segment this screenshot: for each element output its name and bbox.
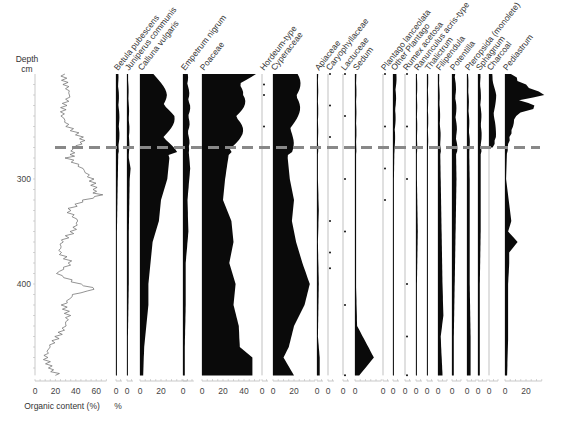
taxon-tick-label: 0 [200, 386, 205, 396]
trace-dot [263, 126, 265, 128]
depth-axis-title: Depth [16, 54, 39, 64]
organic-tick-label: 60 [91, 386, 101, 396]
taxon-profile-potentilla [452, 74, 457, 375]
taxon-tick-label: 0 [125, 386, 130, 396]
taxon-tick-label: 0 [450, 386, 455, 396]
taxon-profile-pediastrum [505, 74, 544, 375]
trace-dot [384, 168, 386, 170]
taxon-tick-label: 0 [315, 386, 320, 396]
trace-dot [384, 73, 386, 75]
taxon-tick-label: 0 [425, 386, 430, 396]
taxon-profile-betula-pubescens [116, 74, 119, 375]
depth-tick-label: 300 [17, 174, 31, 184]
trace-dot [344, 304, 346, 306]
taxon-tick-label: 0 [260, 386, 265, 396]
trace-dot [384, 199, 386, 201]
taxon-profile-apiaceae [317, 74, 320, 375]
taxon-profile-thalictrum [427, 74, 428, 375]
depth-tick-label: 400 [17, 279, 31, 289]
taxon-profile-calluna-vulgaris [140, 74, 177, 375]
taxon-tick-label: 20 [156, 386, 166, 396]
trace-dot [329, 73, 331, 75]
taxon-tick-label: 20 [521, 386, 531, 396]
trace-dot [329, 220, 331, 222]
trace-dot [406, 336, 408, 338]
taxon-profile-ranunculus-acris-type [416, 74, 418, 375]
taxon-tick-label: 0 [476, 386, 481, 396]
taxon-profile-pteropsida-monolete [467, 74, 471, 375]
taxon-tick-label: 20 [289, 386, 299, 396]
pollen-diagram: Depthcm3004000204060Organic content (%)0… [0, 0, 561, 422]
organic-tick-label: 40 [71, 386, 81, 396]
trace-dot [329, 267, 331, 269]
taxon-profile-other-plantago [393, 74, 397, 375]
trace-dot [344, 115, 346, 117]
organic-tick-label: 0 [33, 386, 38, 396]
taxon-tick-label: 0 [326, 386, 331, 396]
taxon-profile-juniperus-communis [127, 74, 131, 375]
organic-tick-label: 20 [51, 386, 61, 396]
trace-dot [329, 252, 331, 254]
organic-content-curve [43, 74, 102, 375]
taxon-tick-label: 0 [487, 386, 492, 396]
trace-dot [406, 178, 408, 180]
trace-dot [344, 178, 346, 180]
taxon-profile-sedum [355, 74, 374, 375]
depth-axis-unit: cm [21, 64, 32, 74]
taxon-tick-label: 0 [503, 386, 508, 396]
trace-dot [406, 73, 408, 75]
taxon-tick-label: 0 [414, 386, 419, 396]
taxon-tick-label: 0 [436, 386, 441, 396]
taxon-tick-label: 0 [381, 386, 386, 396]
trace-dot [406, 283, 408, 285]
taxon-tick-label: 0 [114, 386, 119, 396]
taxon-profile-sphagnum [478, 74, 482, 375]
trace-dot [384, 126, 386, 128]
taxon-tick-label: 0 [353, 386, 358, 396]
taxon-tick-label: 0 [138, 386, 143, 396]
taxon-profile-poaceae [202, 74, 256, 375]
taxon-tick-label: 0 [391, 386, 396, 396]
taxon-profile-charcoal [489, 74, 496, 148]
taxon-tick-label: 40 [239, 386, 249, 396]
trace-dot [329, 105, 331, 107]
organic-content-xlabel: Organic content (%) [24, 401, 100, 411]
taxon-tick-label: 0 [181, 386, 186, 396]
taxon-tick-label: 0 [465, 386, 470, 396]
taxon-tick-label: 0 [341, 386, 346, 396]
taxon-tick-label: 0 [271, 386, 276, 396]
trace-dot [329, 136, 331, 138]
taxon-profile-empetrum-nigrum [183, 74, 190, 375]
trace-dot [263, 94, 265, 96]
trace-dot [344, 231, 346, 233]
trace-dot [406, 374, 408, 376]
trace-dot [263, 84, 265, 86]
trace-dot [344, 374, 346, 376]
trace-dot [406, 126, 408, 128]
taxon-profile-cyperaceae [273, 74, 310, 375]
taxon-tick-label: 20 [218, 386, 228, 396]
taxon-tick-label: 0 [403, 386, 408, 396]
taxon-profile-filipendula [438, 74, 443, 375]
trace-dot [344, 73, 346, 75]
pollen-percent-label: % [114, 401, 122, 411]
